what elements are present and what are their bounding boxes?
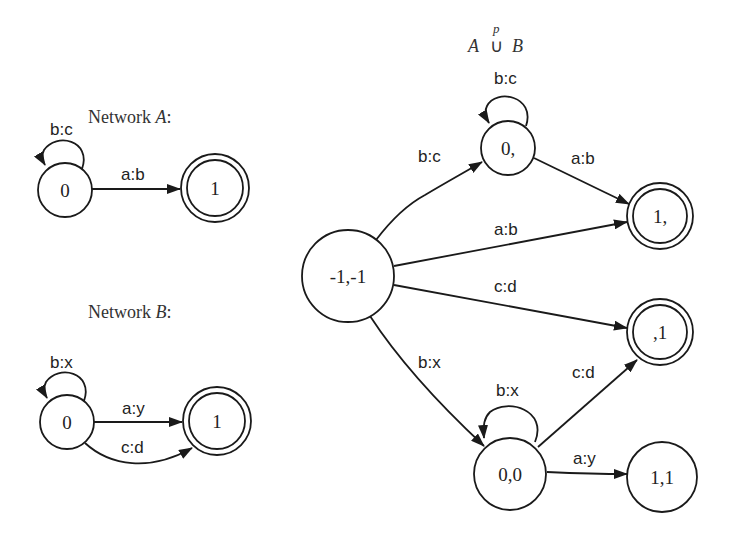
union-network: A ∪ p B b:c b:c a:b a:b c:d b:x b:x c:d … xyxy=(302,21,697,512)
state-label: 1, xyxy=(653,206,667,227)
union-edge-00-to-11 xyxy=(547,472,627,474)
union-state-0: 0, xyxy=(481,121,535,175)
state-label: 1 xyxy=(210,178,220,199)
network-b-state-1-final: 1 xyxy=(183,387,251,455)
state-label: ,1 xyxy=(653,322,667,343)
state-label: -1,-1 xyxy=(330,266,366,287)
svg-text:B: B xyxy=(512,36,523,56)
network-b-edge-label: a:y xyxy=(122,399,145,418)
state-label: 0 xyxy=(62,412,72,433)
union-edge-start-to-00 xyxy=(370,316,484,446)
union-edge-label: a:y xyxy=(573,449,596,468)
network-b-edge-label: b:x xyxy=(50,353,73,372)
network-b: Network B: b:x a:y c:d 0 1 xyxy=(40,302,251,463)
union-edge-label: a:b xyxy=(494,220,518,239)
network-a-state-1-final: 1 xyxy=(181,154,249,222)
svg-text:∪: ∪ xyxy=(490,36,503,56)
union-edge-label: b:c xyxy=(494,69,517,88)
union-edge-label: c:d xyxy=(494,277,517,296)
state-label: 0 xyxy=(60,180,70,201)
union-edge-00-loop xyxy=(484,406,538,442)
union-state-1-final: 1, xyxy=(627,183,693,249)
union-state-start: -1,-1 xyxy=(302,230,394,322)
state-label: 0, xyxy=(501,138,515,159)
union-title: A ∪ p B xyxy=(467,21,523,56)
state-label: 0,0 xyxy=(498,464,522,485)
svg-text:p: p xyxy=(492,21,500,36)
union-edge-label: b:x xyxy=(418,353,441,372)
network-a: Network A: b:c a:b 0 1 xyxy=(38,107,249,222)
union-state-comma1-final: ,1 xyxy=(627,299,693,365)
network-a-title: Network A: xyxy=(88,107,172,127)
fst-diagram: Network A: b:c a:b 0 1 Network B: b:x a:… xyxy=(0,0,732,539)
state-label: 1 xyxy=(212,411,222,432)
union-state-11: 1,1 xyxy=(627,442,697,512)
network-a-state-0: 0 xyxy=(38,163,92,217)
network-b-title: Network B: xyxy=(88,302,172,322)
network-b-state-0: 0 xyxy=(40,395,94,449)
union-state-00: 0,0 xyxy=(474,438,546,510)
svg-text:A: A xyxy=(467,36,480,56)
union-edge-label: c:d xyxy=(572,363,595,382)
union-edge-label: b:c xyxy=(418,147,441,166)
network-a-edge-label: a:b xyxy=(121,165,145,184)
network-b-edge-label: c:d xyxy=(121,438,144,457)
union-edge-start-to-0 xyxy=(376,162,482,240)
union-edge-label: a:b xyxy=(571,149,595,168)
state-label: 1,1 xyxy=(650,467,674,488)
union-edge-label: b:x xyxy=(496,381,519,400)
network-a-edge-label: b:c xyxy=(50,120,73,139)
